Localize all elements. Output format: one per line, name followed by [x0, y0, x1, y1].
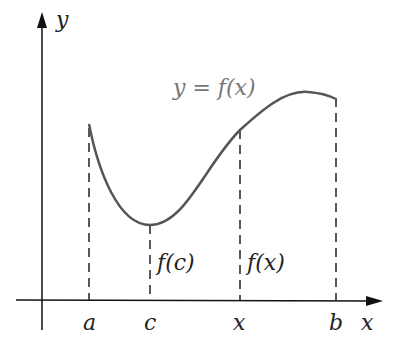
tick-label-b: b: [329, 310, 343, 335]
tick-label-x: x: [233, 310, 246, 335]
curve-label: y = f(x): [172, 75, 256, 100]
y-axis-arrow-icon: [37, 12, 47, 28]
y-axis-label: y: [55, 7, 69, 32]
value-label-fx: f(x): [245, 250, 285, 275]
x-axis: [16, 300, 372, 301]
dashed-guides: [89, 98, 336, 300]
x-axis-label: x: [361, 310, 374, 335]
tick-label-c: c: [144, 310, 156, 335]
x-axis-arrow-icon: [366, 296, 383, 306]
function-curve: [89, 92, 336, 225]
tick-label-a: a: [83, 310, 96, 335]
value-label-fc: f(c): [155, 250, 195, 275]
function-graph: y x y = f(x) a c x b f(c) f(x): [0, 0, 398, 347]
